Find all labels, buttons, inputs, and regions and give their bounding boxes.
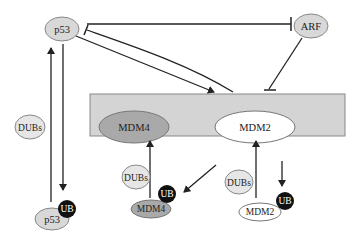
mdm4-ub-node: MDM4 UB xyxy=(131,185,176,218)
edge-complex-to-mdm4ub xyxy=(184,165,216,192)
edge-p53-activates-complex xyxy=(76,36,214,92)
dubs-left-label: DUBs xyxy=(18,123,42,133)
mdm4-ub-label: MDM4 xyxy=(137,204,166,214)
p53-ub-node: p53 UB xyxy=(35,200,76,230)
arf-label: ARF xyxy=(301,21,322,32)
dubs-mdm4-label: DUBs xyxy=(124,173,148,183)
dubs-mdm4-node: DUBs xyxy=(122,165,150,189)
mdm2-complex-node: MDM2 xyxy=(215,111,295,143)
arf-node: ARF xyxy=(294,14,328,38)
p53-node: p53 xyxy=(45,17,79,41)
edge-p53-inhibits-arf xyxy=(87,17,291,31)
pathway-diagram: MDM4 MDM2 p53 ARF DU xyxy=(0,0,349,245)
mdm2-label: MDM2 xyxy=(239,122,271,133)
mdm4-complex-node: MDM4 xyxy=(99,111,169,143)
dubs-left-node: DUBs xyxy=(15,115,45,139)
dubs-mdm2-node: DUBs xyxy=(225,170,253,194)
edge-arf-inhibits-complex xyxy=(264,38,302,90)
mdm2-ub-node: MDM2 UB xyxy=(239,192,294,221)
ub-mdm2-label: UB xyxy=(278,196,291,206)
p53-ub-label: p53 xyxy=(44,214,60,225)
ub-mdm4-label: UB xyxy=(160,189,173,199)
p53-label: p53 xyxy=(54,24,70,35)
dubs-mdm2-label: DUBs xyxy=(227,178,251,188)
edge-complex-inhibits-p53 xyxy=(84,25,233,92)
ub-p53-label: UB xyxy=(60,204,73,214)
mdm4-label: MDM4 xyxy=(118,122,150,133)
mdm2-ub-label: MDM2 xyxy=(246,207,275,217)
